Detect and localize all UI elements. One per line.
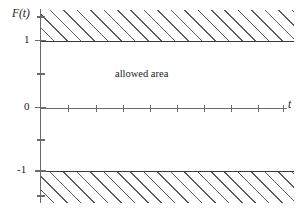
y-axis-tick-3	[35, 107, 46, 108]
y-axis-tick-0	[37, 16, 45, 17]
x-axis-tick-6	[231, 105, 232, 112]
x-axis-tick-5	[204, 105, 205, 112]
figure-canvas: F(t) t 1 0 -1 allowed area	[0, 0, 304, 212]
y-axis-tick-5	[35, 170, 46, 171]
x-axis-tick-8	[283, 105, 284, 112]
y-axis-tick-4	[37, 139, 45, 140]
x-axis-tick-3	[150, 105, 151, 112]
allowed-area-annotation: allowed area	[115, 68, 168, 79]
y-tick-label-1: 1	[24, 33, 30, 45]
y-axis-label: F(t)	[12, 7, 30, 19]
y-axis-tick-2	[37, 73, 45, 74]
x-axis	[40, 108, 287, 109]
x-axis-tick-2	[123, 105, 124, 112]
x-axis-tick-1	[96, 105, 97, 112]
x-axis-label: t	[288, 98, 291, 110]
x-axis-tick-4	[177, 105, 178, 112]
forbidden-region-lower-hatching	[40, 172, 294, 203]
lower-bound-line	[40, 171, 294, 172]
upper-bound-line	[40, 41, 294, 42]
x-axis-tick-0	[68, 105, 69, 112]
y-tick-label-neg1: -1	[17, 163, 26, 175]
y-tick-label-0: 0	[24, 100, 30, 112]
y-axis-tick-1	[35, 40, 46, 41]
x-axis-tick-7	[258, 105, 259, 112]
forbidden-region-upper-hatching	[40, 10, 294, 41]
y-axis-tick-6	[37, 195, 45, 196]
